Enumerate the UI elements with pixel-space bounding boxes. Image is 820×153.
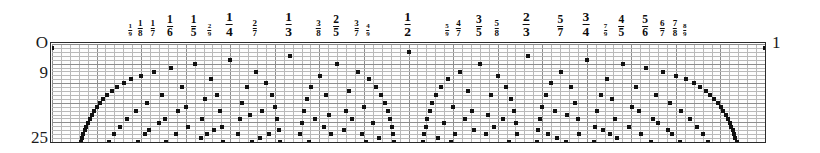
tick-denominator: 7 xyxy=(252,28,257,38)
tick-label-2-over-3: 23 xyxy=(523,10,530,39)
tick-numerator: 7 xyxy=(604,23,608,30)
tick-numerator: 5 xyxy=(642,14,648,26)
tick-label-1-over-7: 17 xyxy=(151,19,156,38)
tick-label-1-over-2: 12 xyxy=(404,10,411,39)
tick-denominator: 9 xyxy=(445,30,449,38)
tick-numerator: 2 xyxy=(333,14,339,26)
tick-denominator: 6 xyxy=(642,26,648,39)
tick-label-1-over-9: 19 xyxy=(128,23,132,38)
data-points-canvas xyxy=(52,44,766,143)
tick-label-6-over-7: 67 xyxy=(660,19,665,38)
tick-label-4-over-7: 47 xyxy=(456,19,461,38)
tick-denominator: 3 xyxy=(285,24,292,39)
tick-label-5-over-7: 57 xyxy=(557,14,563,38)
y-axis-label-0: O xyxy=(8,34,48,51)
tick-label-4-over-5: 45 xyxy=(619,14,625,38)
tick-numerator: 5 xyxy=(445,23,449,30)
tick-label-7-over-9: 79 xyxy=(604,23,608,38)
tick-label-5-over-8: 58 xyxy=(494,19,499,38)
tick-label-3-over-4: 34 xyxy=(582,10,589,39)
tick-numerator: 3 xyxy=(476,14,482,26)
tick-denominator: 3 xyxy=(523,24,530,39)
tick-numerator: 4 xyxy=(366,23,370,30)
tick-label-3-over-7: 37 xyxy=(354,19,359,38)
tick-label-8-over-9: 89 xyxy=(683,23,687,38)
tick-numerator: 3 xyxy=(316,19,321,28)
tick-label-1-over-5: 15 xyxy=(191,14,197,38)
tick-label-1-over-8: 18 xyxy=(138,19,143,38)
tick-numerator: 1 xyxy=(285,10,292,24)
tick-denominator: 9 xyxy=(366,30,370,38)
tick-numerator: 1 xyxy=(151,19,156,28)
tick-label-5-over-6: 56 xyxy=(642,14,648,38)
tick-denominator: 8 xyxy=(673,28,678,38)
tick-denominator: 5 xyxy=(619,26,625,39)
tick-denominator: 8 xyxy=(494,28,499,38)
tick-denominator: 7 xyxy=(557,26,563,39)
tick-denominator: 7 xyxy=(456,28,461,38)
tick-label-2-over-5: 25 xyxy=(333,14,339,38)
tick-denominator: 9 xyxy=(128,30,132,38)
tick-numerator: 1 xyxy=(191,14,197,26)
tick-numerator: 1 xyxy=(128,23,132,30)
x-axis-end-label: 1 xyxy=(772,34,781,51)
farey-fan-figure: O 9 25 1 1918171615291427133825374912594… xyxy=(0,0,820,153)
tick-numerator: 8 xyxy=(683,23,687,30)
tick-denominator: 7 xyxy=(660,28,665,38)
tick-label-5-over-9: 59 xyxy=(445,23,449,38)
tick-numerator: 1 xyxy=(404,10,411,24)
tick-denominator: 5 xyxy=(191,26,197,39)
tick-numerator: 2 xyxy=(208,23,212,30)
y-axis-label-9: 9 xyxy=(8,64,48,81)
tick-denominator: 8 xyxy=(316,28,321,38)
tick-numerator: 1 xyxy=(167,14,173,26)
tick-denominator: 7 xyxy=(354,28,359,38)
tick-numerator: 4 xyxy=(619,14,625,26)
tick-numerator: 3 xyxy=(354,19,359,28)
y-axis-label-25: 25 xyxy=(8,129,48,146)
tick-numerator: 7 xyxy=(673,19,678,28)
tick-label-4-over-9: 49 xyxy=(366,23,370,38)
tick-numerator: 2 xyxy=(523,10,530,24)
tick-denominator: 7 xyxy=(151,28,156,38)
tick-label-7-over-8: 78 xyxy=(673,19,678,38)
tick-denominator: 9 xyxy=(604,30,608,38)
tick-numerator: 3 xyxy=(582,10,589,24)
tick-denominator: 5 xyxy=(333,26,339,39)
tick-denominator: 4 xyxy=(582,24,589,39)
tick-denominator: 9 xyxy=(208,30,212,38)
tick-denominator: 5 xyxy=(476,26,482,39)
tick-denominator: 9 xyxy=(683,30,687,38)
plot-area xyxy=(50,42,766,143)
tick-numerator: 1 xyxy=(138,19,143,28)
tick-denominator: 4 xyxy=(226,24,233,39)
tick-label-3-over-8: 38 xyxy=(316,19,321,38)
tick-numerator: 2 xyxy=(252,19,257,28)
tick-denominator: 2 xyxy=(404,24,411,39)
tick-numerator: 4 xyxy=(456,19,461,28)
tick-numerator: 5 xyxy=(494,19,499,28)
tick-numerator: 1 xyxy=(226,10,233,24)
tick-numerator: 6 xyxy=(660,19,665,28)
tick-label-2-over-9: 29 xyxy=(208,23,212,38)
tick-numerator: 5 xyxy=(557,14,563,26)
tick-label-3-over-5: 35 xyxy=(476,14,482,38)
tick-denominator: 6 xyxy=(167,26,173,39)
tick-label-1-over-4: 14 xyxy=(226,10,233,39)
tick-denominator: 8 xyxy=(138,28,143,38)
tick-label-1-over-3: 13 xyxy=(285,10,292,39)
tick-label-1-over-6: 16 xyxy=(167,14,173,38)
tick-label-2-over-7: 27 xyxy=(252,19,257,38)
